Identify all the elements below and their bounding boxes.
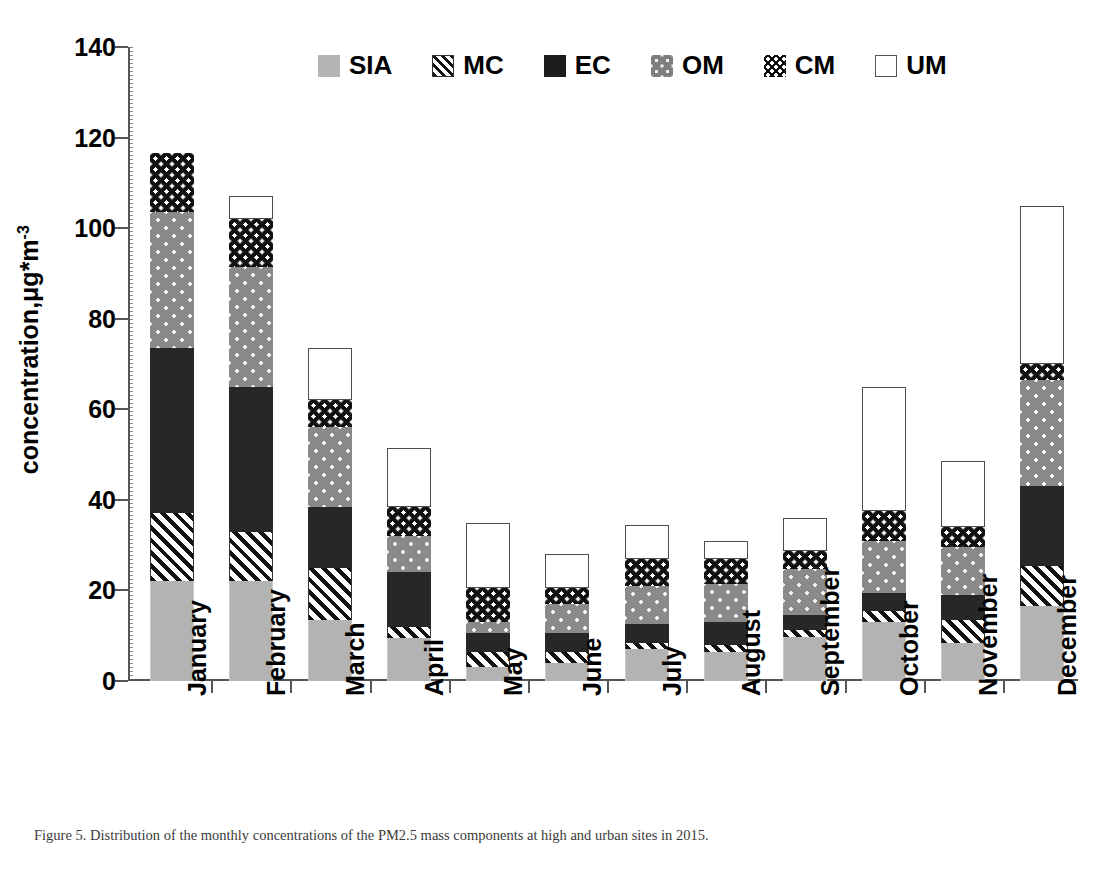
x-axis-label-november: November	[974, 574, 1003, 696]
x-axis-label-october: October	[895, 600, 924, 696]
y-axis-tick	[115, 589, 128, 591]
y-axis-tick	[115, 680, 128, 682]
bar-segment-ec	[1020, 486, 1064, 565]
bar-segment-um	[308, 348, 352, 400]
bar-segment-um	[941, 461, 985, 527]
plot-area: 020406080100120140	[128, 47, 1078, 681]
bar-segment-om	[466, 622, 510, 633]
y-axis-minor-ticks	[130, 47, 133, 681]
bar-segment-cm	[466, 588, 510, 622]
bar-segment-cm	[150, 153, 194, 212]
bar-segment-um	[466, 523, 510, 589]
bar-segment-ec	[308, 507, 352, 568]
bar-segment-um	[862, 387, 906, 512]
bar-segment-mc	[308, 568, 352, 620]
figure-caption: Figure 5. Distribution of the monthly co…	[34, 826, 1084, 844]
y-axis-tick-label: 80	[36, 304, 116, 333]
bar-segment-om	[150, 212, 194, 348]
y-axis-tick-label: 120	[36, 123, 116, 152]
bar-segment-cm	[941, 527, 985, 547]
bar-segment-um	[783, 518, 827, 551]
bar-segment-um	[387, 448, 431, 507]
y-axis-tick	[115, 46, 128, 48]
y-axis-tick-label: 0	[36, 667, 116, 696]
y-axis-tick	[115, 499, 128, 501]
bar-segment-cm	[704, 559, 748, 584]
y-axis-tick	[115, 318, 128, 320]
bar-segment-cm	[229, 219, 273, 267]
bar-segment-um	[545, 554, 589, 588]
y-axis-tick-label: 20	[36, 576, 116, 605]
y-axis-tick-label: 40	[36, 485, 116, 514]
x-axis-tick	[528, 681, 530, 693]
y-axis-title-text: concentration,μg*m	[15, 240, 43, 475]
bar-segment-cm	[308, 400, 352, 427]
bar-segment-ec	[387, 572, 431, 626]
bar-segment-om	[625, 586, 669, 624]
bar-segment-ec	[150, 348, 194, 513]
y-axis-tick-label: 60	[36, 395, 116, 424]
x-axis-label-march: March	[341, 622, 370, 696]
y-axis-tick	[115, 137, 128, 139]
x-axis-tick	[607, 681, 609, 693]
x-axis-label-july: July	[658, 646, 687, 696]
y-axis-title: concentration,μg*m-3	[14, 225, 43, 474]
bar-segment-om	[387, 536, 431, 572]
x-axis-label-august: August	[737, 610, 766, 696]
y-axis-tick-label: 140	[36, 33, 116, 62]
x-axis-tick	[1003, 681, 1005, 693]
bar-segment-om	[229, 267, 273, 387]
bar-segment-um	[625, 525, 669, 559]
x-axis-label-december: December	[1053, 575, 1082, 696]
bar-segment-cm	[387, 507, 431, 536]
chart-figure: concentration,μg*m-3 SIAMCECOMCMUM 02040…	[0, 0, 1111, 870]
y-axis-tick-label: 100	[36, 214, 116, 243]
bar-segment-ec	[229, 387, 273, 532]
bar-segment-om	[1020, 380, 1064, 486]
bar-segment-om	[862, 541, 906, 593]
y-axis-tick	[115, 227, 128, 229]
bar-segment-cm	[862, 511, 906, 540]
bar-segment-cm	[625, 559, 669, 586]
x-axis-label-september: September	[816, 567, 845, 696]
bar-segment-om	[308, 427, 352, 506]
bar-segment-um	[704, 541, 748, 559]
x-axis-label-january: January	[183, 600, 212, 696]
bar-segment-um	[1020, 206, 1064, 365]
x-axis-label-april: April	[420, 639, 449, 696]
bar-segment-om	[545, 604, 589, 633]
bar-segment-mc	[387, 627, 431, 638]
x-axis-label-february: February	[262, 589, 291, 696]
bar-segment-um	[229, 196, 273, 219]
bar-segment-cm	[545, 588, 589, 604]
x-axis-label-june: June	[578, 638, 607, 696]
bar-segment-ec	[625, 624, 669, 642]
bar-segment-mc	[229, 532, 273, 582]
bar-segment-cm	[1020, 364, 1064, 380]
bar-segment-mc	[150, 513, 194, 581]
y-axis-tick	[115, 408, 128, 410]
y-axis-title-exponent: -3	[14, 225, 31, 239]
x-axis-label-may: May	[499, 647, 528, 696]
